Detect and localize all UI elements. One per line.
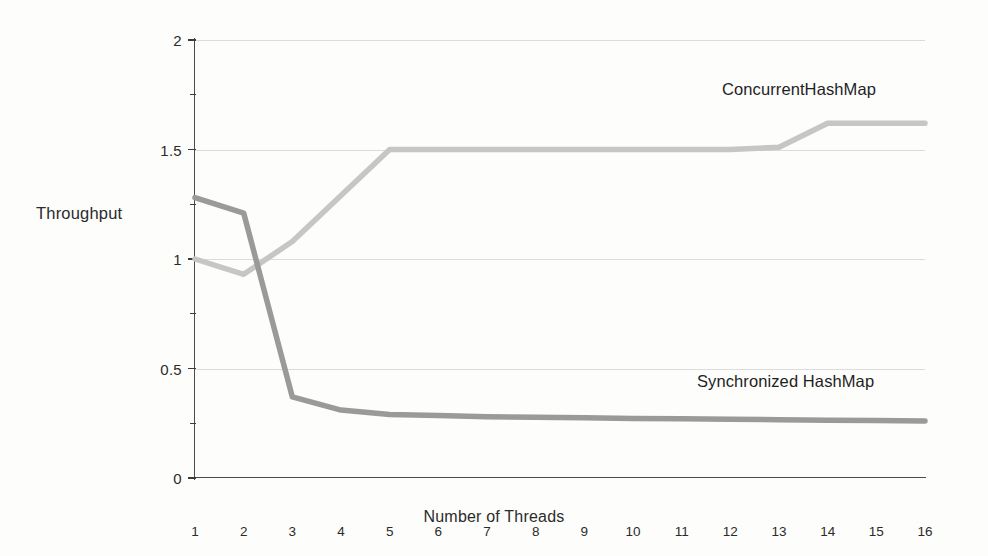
series-label-synchronized-hashmap: Synchronized HashMap xyxy=(697,372,874,391)
x-axis-title: Number of Threads xyxy=(0,508,988,526)
series-line-concurrenthashmap xyxy=(195,123,925,274)
y-axis-title: Throughput xyxy=(36,204,122,223)
chart-figure: 00.511.5212345678910111213141516 Concurr… xyxy=(0,0,988,556)
series-label-concurrenthashmap: ConcurrentHashMap xyxy=(722,80,876,99)
